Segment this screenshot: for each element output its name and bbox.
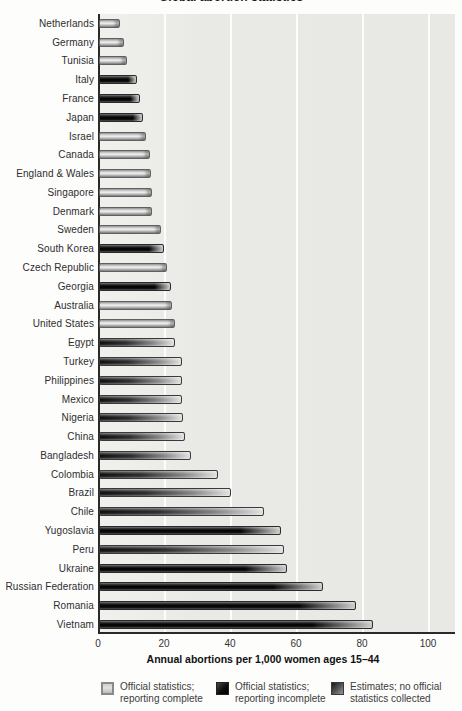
bar-germany bbox=[99, 38, 124, 47]
legend: Official statistics;reporting completeOf… bbox=[0, 681, 462, 707]
bar-netherlands bbox=[99, 19, 120, 28]
country-label: Japan bbox=[0, 112, 99, 123]
bar-row: United States bbox=[0, 315, 455, 334]
bar-georgia bbox=[99, 282, 171, 291]
country-label: Peru bbox=[0, 544, 99, 555]
bar-australia bbox=[99, 301, 172, 310]
x-axis-label: Annual abortions per 1,000 women ages 15… bbox=[98, 653, 428, 665]
country-label: Sweden bbox=[0, 224, 99, 235]
bar-china bbox=[99, 432, 185, 441]
chart-title: Global abortion statistics bbox=[0, 0, 462, 3]
bar-row: Bangladesh bbox=[0, 446, 455, 465]
country-label: Italy bbox=[0, 74, 99, 85]
legend-item-complete: Official statistics;reporting complete bbox=[101, 681, 203, 704]
bar-turkey bbox=[99, 357, 182, 366]
legend-swatch-incomplete-icon bbox=[216, 682, 229, 695]
bar-row: Georgia bbox=[0, 277, 455, 296]
bar-mexico bbox=[99, 395, 182, 404]
bar-row: France bbox=[0, 89, 455, 108]
bar-row: Canada bbox=[0, 145, 455, 164]
country-label: China bbox=[0, 431, 99, 442]
country-label: Turkey bbox=[0, 356, 99, 367]
bar-row: China bbox=[0, 427, 455, 446]
country-label: Bangladesh bbox=[0, 450, 99, 461]
bar-vietnam bbox=[99, 620, 373, 629]
country-label: Canada bbox=[0, 149, 99, 160]
bar-row: Denmark bbox=[0, 202, 455, 221]
abortion-statistics-chart: Global abortion statistics NetherlandsGe… bbox=[0, 0, 462, 711]
legend-item-incomplete: Official statistics;reporting incomplete bbox=[216, 681, 326, 704]
country-label: Brazil bbox=[0, 487, 99, 498]
bar-philippines bbox=[99, 376, 182, 385]
bar-row: Czech Republic bbox=[0, 258, 455, 277]
country-label: South Korea bbox=[0, 243, 99, 254]
bar-russian-federation bbox=[99, 582, 323, 591]
legend-item-estimate: Estimates; no officialstatistics collect… bbox=[331, 681, 442, 704]
bar-row: Romania bbox=[0, 596, 455, 615]
bar-row: Germany bbox=[0, 33, 455, 52]
bar-row: Tunisia bbox=[0, 52, 455, 71]
bar-row: Turkey bbox=[0, 352, 455, 371]
bar-south-korea bbox=[99, 244, 164, 253]
legend-label: Official statistics;reporting incomplete bbox=[235, 681, 326, 704]
x-tick-label: 40 bbox=[224, 638, 235, 650]
bar-egypt bbox=[99, 338, 175, 347]
bar-row: Russian Federation bbox=[0, 577, 455, 596]
country-label: Vietnam bbox=[0, 619, 99, 630]
country-label: Romania bbox=[0, 600, 99, 611]
x-tick-label: 80 bbox=[356, 638, 367, 650]
bar-row: Netherlands bbox=[0, 14, 455, 33]
country-label: Georgia bbox=[0, 281, 99, 292]
x-tick-label: 0 bbox=[95, 638, 101, 650]
bar-tunisia bbox=[99, 56, 127, 65]
country-label: Colombia bbox=[0, 469, 99, 480]
country-label: Tunisia bbox=[0, 55, 99, 66]
bar-row: Vietnam bbox=[0, 615, 455, 634]
x-tick-label: 20 bbox=[158, 638, 169, 650]
bar-row: Nigeria bbox=[0, 408, 455, 427]
country-label: Russian Federation bbox=[0, 581, 99, 592]
country-label: Nigeria bbox=[0, 412, 99, 423]
bar-italy bbox=[99, 75, 137, 84]
bar-japan bbox=[99, 113, 143, 122]
bar-row: Singapore bbox=[0, 183, 455, 202]
bar-row: South Korea bbox=[0, 239, 455, 258]
bar-row: Chile bbox=[0, 502, 455, 521]
country-label: Netherlands bbox=[0, 18, 99, 29]
x-tick-label: 100 bbox=[420, 638, 437, 650]
bar-singapore bbox=[99, 188, 152, 197]
bar-brazil bbox=[99, 488, 231, 497]
bar-england-wales bbox=[99, 169, 151, 178]
country-label: Yugoslavia bbox=[0, 525, 99, 536]
bar-row: Colombia bbox=[0, 465, 455, 484]
bar-row: Israel bbox=[0, 127, 455, 146]
bar-row: Yugoslavia bbox=[0, 521, 455, 540]
country-label: United States bbox=[0, 318, 99, 329]
country-label: Ukraine bbox=[0, 563, 99, 574]
country-label: Egypt bbox=[0, 337, 99, 348]
legend-label: Official statistics;reporting complete bbox=[120, 681, 203, 704]
bar-row: Australia bbox=[0, 296, 455, 315]
bar-colombia bbox=[99, 470, 218, 479]
bar-denmark bbox=[99, 207, 152, 216]
bar-row: England & Wales bbox=[0, 164, 455, 183]
bar-sweden bbox=[99, 225, 161, 234]
bar-row: Mexico bbox=[0, 390, 455, 409]
country-label: Australia bbox=[0, 300, 99, 311]
country-label: France bbox=[0, 93, 99, 104]
bar-nigeria bbox=[99, 413, 183, 422]
bar-row: Ukraine bbox=[0, 559, 455, 578]
bar-peru bbox=[99, 545, 284, 554]
bar-row: Peru bbox=[0, 540, 455, 559]
bar-romania bbox=[99, 601, 356, 610]
bar-row: Egypt bbox=[0, 333, 455, 352]
legend-swatch-estimate-icon bbox=[331, 682, 344, 695]
country-label: Israel bbox=[0, 131, 99, 142]
bar-row: Sweden bbox=[0, 221, 455, 240]
legend-label: Estimates; no officialstatistics collect… bbox=[350, 681, 442, 704]
country-label: Philippines bbox=[0, 375, 99, 386]
country-label: Germany bbox=[0, 37, 99, 48]
legend-swatch-complete-icon bbox=[101, 682, 114, 695]
bar-ukraine bbox=[99, 564, 287, 573]
country-label: Czech Republic bbox=[0, 262, 99, 273]
